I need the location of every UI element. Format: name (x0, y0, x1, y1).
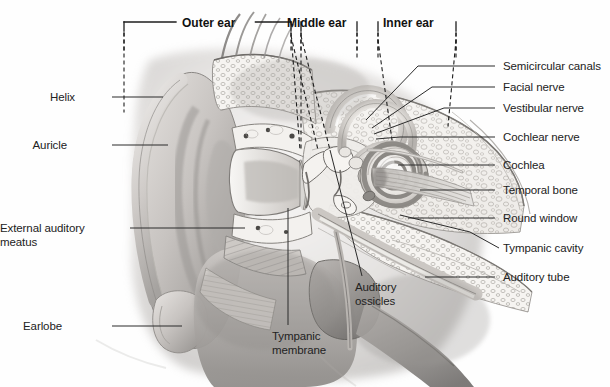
label-helix: Helix (0, 91, 75, 105)
region-divider-slant-0 (291, 36, 318, 150)
region-divider-slant-3 (448, 40, 456, 126)
label-cochlea: Cochlea (503, 159, 545, 173)
leader-auditory-ossicles (330, 150, 362, 276)
label-external-auditory-meatus: External auditory meatus (0, 222, 22, 249)
label-earlobe: Earlobe (0, 320, 62, 334)
label-facial-nerve: Facial nerve (503, 81, 564, 95)
leader-semicircular-canals (366, 66, 495, 120)
region-divider-1 (291, 33, 300, 150)
bracket-label-inner-ear: Inner ear (383, 16, 434, 30)
leader-vestibular-nerve (374, 108, 495, 134)
bracket-label-outer-ear: Outer ear (182, 16, 235, 30)
label-semicircular-canals: Semicircular canals (503, 60, 601, 74)
label-tympanic-membrane: Tympanic membrane (272, 330, 326, 357)
leader-cochlear-nerve (376, 137, 495, 139)
region-divider-slant-1 (301, 36, 330, 150)
ear-anatomy-figure: Outer earMiddle earInner ear HelixAuricl… (0, 0, 610, 387)
label-temporal-bone: Temporal bone (503, 184, 578, 198)
label-vestibular-nerve: Vestibular nerve (503, 102, 584, 116)
label-auditory-tube: Auditory tube (503, 271, 569, 285)
label-auditory-ossicles: Auditory ossicles (355, 281, 396, 308)
label-cochlear-nerve: Cochlear nerve (503, 131, 580, 145)
leader-tympanic-cavity (400, 215, 499, 248)
region-divider-slant-2 (378, 40, 392, 140)
label-round-window: Round window (503, 212, 577, 226)
label-tympanic-cavity: Tympanic cavity (503, 242, 583, 256)
label-auricle: Auricle (0, 139, 67, 153)
bracket-label-middle-ear: Middle ear (287, 16, 346, 30)
